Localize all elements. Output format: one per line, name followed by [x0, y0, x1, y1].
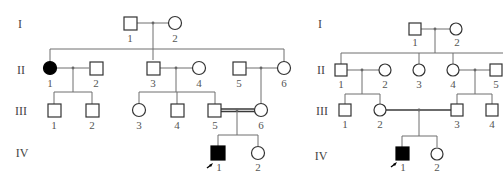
individual-II-6-female	[278, 62, 291, 75]
individual-II-1-male	[335, 64, 347, 76]
individual-IV-1-male-affected-proband	[211, 146, 225, 160]
individual-III-3-female	[133, 104, 146, 117]
individual-I-1-male	[409, 23, 421, 35]
individual-III-4-male	[486, 104, 498, 116]
id-label: 5	[493, 78, 499, 90]
id-label: 2	[377, 118, 383, 130]
id-label: 4	[174, 119, 180, 131]
generation-label-IV: IV	[16, 146, 29, 160]
id-label: 1	[338, 78, 344, 90]
proband-arrow-icon	[207, 165, 211, 168]
generation-label-II: II	[317, 63, 325, 77]
proband-arrow-icon	[391, 164, 395, 167]
generation-label-III: III	[15, 104, 27, 118]
individual-III-5-male	[208, 104, 221, 117]
id-label: 1	[51, 119, 57, 131]
id-label: 2	[172, 32, 178, 44]
id-label: 3	[136, 119, 142, 131]
individual-III-2-male	[86, 104, 99, 117]
individual-I-2-female	[450, 23, 462, 35]
generation-label-II: II	[17, 63, 25, 77]
individual-II-2-male	[90, 62, 103, 75]
individual-III-1-male	[48, 104, 61, 117]
id-label: 5	[212, 119, 218, 131]
id-label: 3	[150, 77, 156, 89]
id-label: 6	[258, 119, 264, 131]
id-label: 4	[450, 78, 456, 90]
id-label: 2	[454, 36, 460, 48]
left-pedigree: I II III IV 1 2 1 2 3 4 5	[15, 17, 291, 174]
id-label: 1	[216, 161, 222, 173]
generation-label-III: III	[316, 104, 328, 118]
individual-II-5-male	[233, 62, 246, 75]
individual-III-6-female	[255, 104, 268, 117]
id-label: 5	[236, 77, 242, 89]
individual-II-5-male	[490, 64, 502, 76]
individual-II-2-female	[379, 64, 391, 76]
id-label: 2	[434, 161, 440, 173]
id-label: 1	[412, 36, 418, 48]
generation-label-I: I	[18, 17, 22, 31]
generation-label-IV: IV	[315, 149, 328, 163]
individual-III-2-female	[374, 104, 386, 116]
individual-I-2-female	[169, 17, 182, 30]
id-label: 3	[416, 78, 422, 90]
id-label: 2	[255, 161, 261, 173]
individual-II-4-female	[447, 64, 459, 76]
id-label: 2	[93, 77, 99, 89]
id-label: 3	[454, 118, 460, 130]
individual-II-3-female	[413, 64, 425, 76]
individual-III-4-male	[171, 104, 184, 117]
id-label: 2	[382, 78, 388, 90]
individual-II-4-female	[193, 62, 206, 75]
individual-IV-2-female	[252, 147, 265, 160]
generation-label-I: I	[318, 17, 322, 31]
individual-IV-1-male-affected-proband	[396, 147, 409, 160]
individual-III-3-male	[451, 104, 463, 116]
id-label: 2	[89, 119, 95, 131]
individual-I-1-male	[124, 17, 137, 30]
id-label: 1	[127, 32, 133, 44]
individual-II-1-female-affected	[44, 62, 57, 75]
id-label: 1	[47, 77, 53, 89]
pedigree-figure: I II III IV 1 2 1 2 3 4 5	[0, 0, 503, 187]
id-label: 6	[281, 77, 287, 89]
id-label: 4	[489, 118, 495, 130]
individual-IV-2-female	[431, 148, 443, 160]
id-label: 1	[342, 118, 348, 130]
individual-III-1-male	[339, 104, 351, 116]
id-label: 4	[196, 77, 202, 89]
individual-II-3-male	[147, 62, 160, 75]
right-pedigree: I II III IV 1 2 1 2 3 4 5	[315, 17, 503, 173]
id-label: 1	[400, 161, 406, 173]
